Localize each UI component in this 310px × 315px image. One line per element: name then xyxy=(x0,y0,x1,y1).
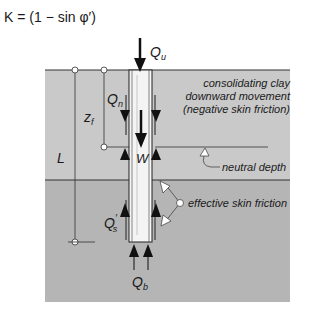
clay-annotation-line2: downward movement xyxy=(185,90,290,102)
clay-annotation-line1: consolidating clay xyxy=(203,77,291,89)
neutral-depth-label: neutral depth xyxy=(222,161,286,173)
effective-skin-friction-label: effective skin friction xyxy=(188,197,287,209)
k-equation: K = (1 − sin φ′) xyxy=(4,9,96,25)
qs-label: Q′s xyxy=(104,213,118,234)
qu-label: Qu xyxy=(150,44,166,62)
clay-annotation-line3: (negative skin friction) xyxy=(183,103,290,115)
w-label: W xyxy=(136,151,150,166)
qu-arrow-icon xyxy=(134,38,146,72)
l-label: L xyxy=(57,150,65,166)
pile-negative-skin-friction-diagram: Qu W Qn Q′s Qb L zf consolidating clay d xyxy=(0,0,310,315)
